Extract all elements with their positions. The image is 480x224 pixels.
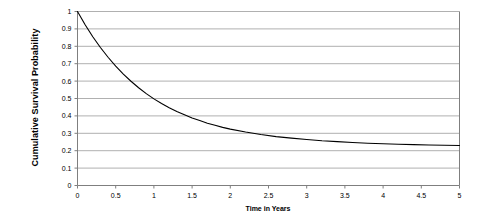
x-tick-label: 1.5 [187, 192, 197, 199]
y-tick-label: 1 [68, 8, 72, 15]
y-tick-label: 0.6 [62, 78, 72, 85]
y-tick-label: 0.9 [62, 25, 72, 32]
y-tick-label: 0.3 [62, 130, 72, 137]
x-tick-label: 4 [381, 192, 385, 199]
x-tick-label: 4.5 [416, 192, 426, 199]
y-tick-label: 0.7 [62, 60, 72, 67]
x-tick-label: 3 [305, 192, 309, 199]
y-tick-label: 0.2 [62, 147, 72, 154]
x-axis-title-label: Time in Years [77, 205, 459, 212]
y-tick-label: 0.4 [62, 112, 72, 119]
survival-curve-chart: Cumulative Survival Probability 00.10.20… [0, 0, 480, 224]
y-tick-label: 0.8 [62, 43, 72, 50]
y-tick-label: 0.5 [62, 95, 72, 102]
x-tick-label: 0.5 [111, 192, 121, 199]
x-tick-label: 2 [228, 192, 232, 199]
y-tick-label: 0.1 [62, 165, 72, 172]
survival-curve-line [78, 12, 460, 146]
x-tick-label: 0 [76, 192, 80, 199]
x-tick-label: 2.5 [264, 192, 274, 199]
plot-area: 00.10.20.30.40.50.60.70.80.9100.511.522.… [0, 0, 480, 224]
x-tick-label: 5 [458, 192, 462, 199]
x-tick-label: 3.5 [340, 192, 350, 199]
y-tick-label: 0 [68, 182, 72, 189]
x-tick-label: 1 [152, 192, 156, 199]
